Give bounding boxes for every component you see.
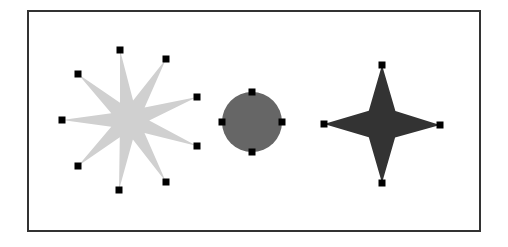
selection-handle[interactable] [116, 187, 123, 194]
shapes-group [59, 47, 444, 194]
nine-point-star[interactable] [59, 47, 201, 194]
selection-handle[interactable] [279, 119, 286, 126]
selection-handle[interactable] [249, 149, 256, 156]
selection-handle[interactable] [117, 47, 124, 54]
nine-point-star-body[interactable] [62, 50, 197, 190]
selection-handle[interactable] [219, 119, 226, 126]
selection-handle[interactable] [163, 56, 170, 63]
circle[interactable] [219, 89, 286, 156]
selection-handle[interactable] [75, 71, 82, 78]
selection-handle[interactable] [379, 180, 386, 187]
selection-handle[interactable] [194, 94, 201, 101]
selection-handle[interactable] [75, 163, 82, 170]
selection-handle[interactable] [249, 89, 256, 96]
selection-handle[interactable] [379, 62, 386, 69]
circle-body[interactable] [222, 92, 282, 152]
four-point-star[interactable] [321, 62, 444, 187]
diagram-canvas [0, 0, 508, 247]
selection-handle[interactable] [163, 179, 170, 186]
four-point-star-body[interactable] [324, 65, 440, 183]
selection-handle[interactable] [437, 122, 444, 129]
selection-handle[interactable] [321, 121, 328, 128]
selection-handle[interactable] [59, 117, 66, 124]
selection-handle[interactable] [194, 143, 201, 150]
